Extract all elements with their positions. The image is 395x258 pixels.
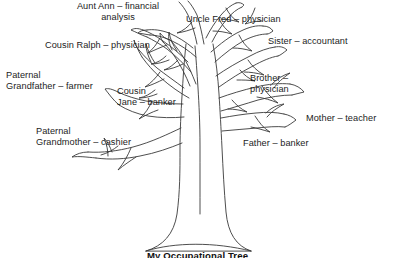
twig-sister-a — [233, 35, 252, 51]
label-father: Father – banker — [243, 138, 338, 149]
diagram-title: My Occupational Tree — [0, 250, 395, 258]
label-uncle-fred: Uncle Fred – physician — [186, 14, 311, 25]
branch-sister-tip — [263, 26, 273, 34]
twig-right-low-a — [251, 116, 270, 132]
branch-left-low-tip — [72, 152, 96, 158]
label-cousin-ralph: Cousin Ralph – physician — [45, 40, 190, 51]
label-cousin-jane: Cousin Jane – banker — [117, 86, 192, 109]
branch-right-up-tip — [275, 47, 287, 56]
label-paternal-grandfather: Paternal Grandfather – farmer — [6, 70, 116, 93]
twig-left-up-a — [145, 72, 164, 87]
twig-extra-left-1 — [151, 56, 169, 64]
occupational-tree-figure: Aunt Ann – financial analysis Uncle Fred… — [0, 0, 395, 258]
branch-uncle-fred-tip — [236, 3, 244, 7]
twig-left-inner-a — [164, 60, 183, 70]
label-sister: Sister – accountant — [268, 36, 388, 47]
branch-left-up-top — [139, 50, 184, 88]
twig-extra-right-2 — [228, 100, 247, 112]
branch-right-low-tip — [284, 114, 296, 127]
twig-right-low-b — [266, 104, 284, 117]
label-paternal-grandmother: Paternal Grandmother – cashier — [36, 126, 156, 149]
branch-right-mid-bottom — [221, 95, 292, 111]
label-mother: Mother – teacher — [306, 113, 395, 124]
label-brother: Brother – physician — [250, 73, 320, 96]
label-aunt-ann: Aunt Ann – financial analysis — [58, 1, 178, 24]
trunk-inner-fork — [195, 46, 200, 214]
branch-right-low-top — [221, 112, 284, 118]
